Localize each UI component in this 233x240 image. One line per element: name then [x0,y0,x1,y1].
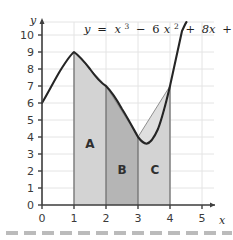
x-tick-label-0: 0 [39,212,46,225]
y-tick-label-9: 9 [27,46,34,59]
y-axis-name: y [29,14,37,27]
graph-figure: 0 1 2 3 4 5 0 1 2 3 4 5 6 7 8 9 10 x y A… [0,0,233,240]
y-tick-label-3: 3 [27,148,34,161]
y-tick-label-0: 0 [27,199,34,212]
eq-plus-1: + [185,22,195,36]
region-label-c: C [151,163,160,177]
eq-x-base: x [114,22,121,36]
eq-y: y [83,22,91,36]
y-tick-label-2: 2 [27,165,34,178]
eq-minus: − [136,22,146,36]
region-label-a: A [85,137,95,151]
eq-six: 6 [152,22,159,36]
y-tick-label-5: 5 [27,114,34,127]
x-tick-label-5: 5 [199,212,206,225]
function-plot: 0 1 2 3 4 5 0 1 2 3 4 5 6 7 8 9 10 x y A… [0,0,233,240]
x-tick-label-4: 4 [167,212,174,225]
eq-eight-x: 8x [202,22,216,36]
y-tick-label-10: 10 [20,29,34,42]
region-label-b: B [117,163,126,177]
eq-x-exponent: 3 [125,22,130,31]
eq-x2-base: x [164,22,171,36]
y-tick-label-4: 4 [27,131,34,144]
x-tick-label-1: 1 [71,212,78,225]
eq-x2-exponent: 2 [174,22,179,31]
x-tick-label-3: 3 [135,212,142,225]
x-axis-name: x [219,214,226,227]
y-tick-label-7: 7 [27,80,34,93]
y-tick-label-1: 1 [27,182,34,195]
y-tick-label-8: 8 [27,63,34,76]
eq-equals: = [97,22,107,36]
y-tick-label-6: 6 [27,97,34,110]
eq-plus-2: + [222,22,232,36]
x-tick-label-2: 2 [103,212,110,225]
